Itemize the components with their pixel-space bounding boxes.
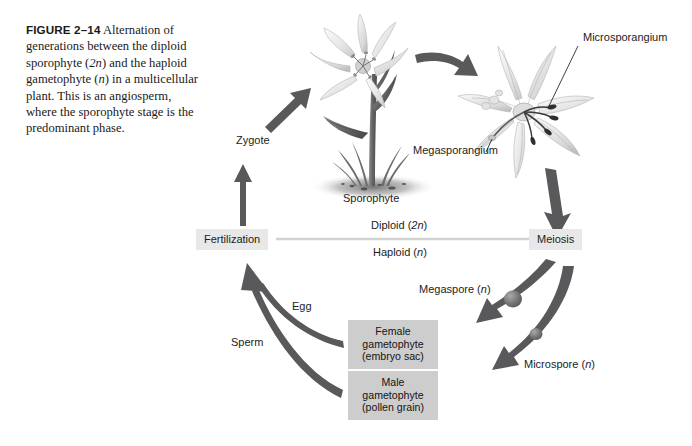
- sporophyte-plant-illustration: [310, 14, 436, 200]
- arrow-flower-to-meiosis: [544, 168, 571, 238]
- stage-box-meiosis[interactable]: Meiosis: [529, 229, 582, 250]
- diploid-paren: ): [424, 219, 428, 231]
- male-gametophyte-line-3: (pollen grain): [350, 401, 436, 414]
- box-male-gametophyte[interactable]: Male gametophyte (pollen grain): [348, 371, 438, 420]
- figure-caption: FIGURE 2–14 Alternation of generations b…: [26, 22, 204, 137]
- label-egg: Egg: [292, 300, 312, 313]
- label-haploid: Haploid (n): [373, 246, 427, 259]
- label-megasporangium: Megasporangium: [413, 144, 498, 157]
- label-sperm: Sperm: [231, 336, 263, 349]
- arrow-zygote-to-sporophyte: [265, 88, 311, 133]
- arrow-sporophyte-to-flower: [415, 53, 478, 76]
- microsporangium-leader-line: [548, 46, 578, 108]
- figure-alternation-of-generations: FIGURE 2–14 Alternation of generations b…: [0, 0, 692, 446]
- label-microspore: Microspore (n): [524, 358, 595, 371]
- female-gametophyte-line-3: (embryo sac): [350, 350, 436, 363]
- box-female-gametophyte[interactable]: Female gametophyte (embryo sac): [348, 320, 438, 369]
- male-gametophyte-line-1: Male: [350, 376, 436, 389]
- diploid-italic-2n: 2n: [411, 219, 423, 231]
- arrow-fertilization-to-zygote: [234, 164, 252, 226]
- flower-closeup-illustration: [458, 46, 594, 178]
- male-gametophyte-line-2: gametophyte: [350, 389, 436, 402]
- microspore-sphere: [530, 328, 543, 340]
- megaspore-sphere: [504, 291, 522, 308]
- haploid-text: Haploid (: [373, 246, 417, 258]
- sporophyte-flower: [310, 14, 408, 108]
- arrowhead-fertilization-convergence: [241, 263, 269, 292]
- female-gametophyte-line-2: gametophyte: [350, 338, 436, 351]
- megaspore-text: Megaspore (: [419, 283, 481, 295]
- label-megaspore: Megaspore (n): [419, 283, 491, 296]
- haploid-paren: ): [423, 246, 427, 258]
- arrow-meiosis-to-microspore: [492, 266, 574, 370]
- figure-number: FIGURE 2–14: [26, 23, 101, 36]
- label-microsporangium: Microsporangium: [583, 31, 667, 44]
- diploid-text: Diploid (: [371, 219, 411, 231]
- female-gametophyte-line-1: Female: [350, 325, 436, 338]
- microspore-paren: ): [591, 358, 595, 370]
- arrow-egg-to-fertilization: [258, 283, 344, 348]
- label-zygote: Zygote: [236, 134, 270, 147]
- label-diploid: Diploid (2n): [371, 219, 427, 232]
- microspore-text: Microspore (: [524, 358, 585, 370]
- megaspore-paren: ): [487, 283, 491, 295]
- label-sporophyte: Sporophyte: [343, 192, 399, 205]
- caption-italic-2n: 2n: [89, 56, 102, 70]
- stage-box-fertilization[interactable]: Fertilization: [196, 229, 268, 250]
